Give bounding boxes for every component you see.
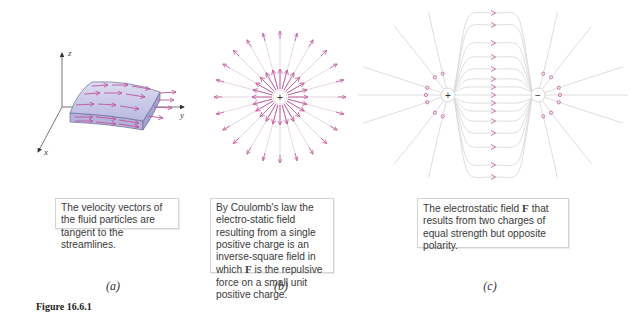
x-axis-label: x xyxy=(43,147,48,157)
panel-b-radial-field: + xyxy=(214,31,346,163)
positive-charge-symbol: + xyxy=(277,92,283,103)
panel-label-a: (a) xyxy=(106,279,120,294)
caption-box-a: The velocity vectors of the fluid partic… xyxy=(55,198,179,229)
positive-charge-symbol: + xyxy=(445,90,451,101)
vector-f-symbol: F xyxy=(522,202,529,214)
figure-number: Figure 16.6.1 xyxy=(36,301,92,312)
panel-label-b: (b) xyxy=(274,279,288,294)
caption-text-c-1: The electrostatic field xyxy=(423,203,522,214)
panel-label-c: (c) xyxy=(483,279,496,294)
z-axis-label: z xyxy=(67,48,72,58)
panel-a-streamline-diagram: z y x xyxy=(38,48,184,157)
negative-charge-symbol: − xyxy=(535,90,541,101)
fluid-slab xyxy=(70,82,160,130)
caption-box-b: By Coulomb's law the electro-static fiel… xyxy=(210,198,334,273)
panel-c-dipole-field: +− xyxy=(358,11,628,180)
caption-box-c: The electrostatic field F that results f… xyxy=(417,198,569,248)
y-axis-label: y xyxy=(179,110,184,120)
vector-f-symbol: F xyxy=(245,263,252,275)
